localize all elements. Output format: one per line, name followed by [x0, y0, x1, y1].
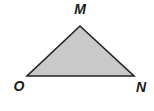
triangle-diagram: M O N: [0, 0, 154, 111]
triangle-mon: [27, 26, 134, 76]
vertex-label-m: M: [74, 1, 86, 17]
vertex-label-n: N: [136, 79, 147, 95]
vertex-label-o: O: [14, 78, 25, 94]
